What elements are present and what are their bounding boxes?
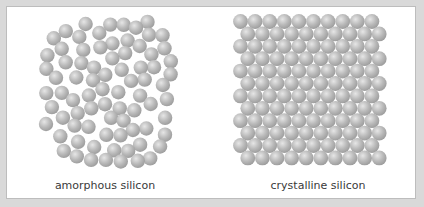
atom xyxy=(129,21,143,35)
atom xyxy=(328,101,343,116)
atom xyxy=(49,71,63,85)
atom xyxy=(328,126,343,141)
atom xyxy=(144,97,158,111)
atom xyxy=(240,101,255,116)
atom xyxy=(372,27,387,42)
atom xyxy=(270,76,285,91)
atom xyxy=(277,39,292,54)
atom xyxy=(270,101,285,116)
atom xyxy=(270,151,285,166)
atom xyxy=(157,41,171,55)
atom xyxy=(45,100,59,114)
atom xyxy=(292,64,307,79)
atom xyxy=(299,76,314,91)
atom xyxy=(299,126,314,141)
atom xyxy=(306,64,321,79)
atom xyxy=(365,14,380,29)
atom xyxy=(240,151,255,166)
atom xyxy=(233,113,248,128)
atom xyxy=(292,14,307,29)
atom xyxy=(284,76,299,91)
atom xyxy=(98,97,112,111)
atom xyxy=(255,126,270,141)
atom xyxy=(306,39,321,54)
atom xyxy=(321,113,336,128)
atom xyxy=(365,89,380,104)
crystalline-silicon-caption: crystalline silicon xyxy=(271,179,366,192)
atom xyxy=(306,89,321,104)
atom xyxy=(153,139,167,153)
atom xyxy=(111,85,125,99)
atom xyxy=(365,64,380,79)
atom xyxy=(233,64,248,79)
atom xyxy=(284,27,299,42)
atom xyxy=(240,126,255,141)
atom xyxy=(115,63,129,77)
atom xyxy=(277,138,292,153)
atom xyxy=(357,126,372,141)
atom xyxy=(284,101,299,116)
atom xyxy=(155,28,169,42)
atom xyxy=(78,17,92,31)
atom xyxy=(321,14,336,29)
atom xyxy=(343,126,358,141)
atom xyxy=(262,64,277,79)
atom xyxy=(321,39,336,54)
atom xyxy=(57,144,71,158)
atom xyxy=(74,56,88,70)
amorphous-silicon-caption: amorphous silicon xyxy=(55,179,155,192)
atom xyxy=(328,27,343,42)
atom xyxy=(350,64,365,79)
atom xyxy=(262,14,277,29)
atom xyxy=(343,51,358,66)
atom xyxy=(156,78,170,92)
atom xyxy=(248,39,263,54)
atom xyxy=(58,55,72,69)
atom xyxy=(277,14,292,29)
atom xyxy=(328,151,343,166)
atom xyxy=(372,101,387,116)
atom xyxy=(255,76,270,91)
atom xyxy=(131,154,145,168)
atom xyxy=(270,27,285,42)
atom xyxy=(248,89,263,104)
atom xyxy=(328,76,343,91)
atom xyxy=(233,89,248,104)
atom xyxy=(313,101,328,116)
atom xyxy=(277,89,292,104)
atom xyxy=(343,151,358,166)
atom xyxy=(321,89,336,104)
atom xyxy=(306,113,321,128)
atom xyxy=(82,88,96,102)
atom xyxy=(87,140,101,154)
atom xyxy=(240,51,255,66)
atom xyxy=(270,126,285,141)
atom xyxy=(104,111,118,125)
atom xyxy=(233,138,248,153)
atom xyxy=(262,113,277,128)
atom xyxy=(372,51,387,66)
atom xyxy=(350,138,365,153)
atom xyxy=(93,40,107,54)
atom xyxy=(71,135,85,149)
atom xyxy=(284,151,299,166)
atom xyxy=(335,113,350,128)
atom xyxy=(69,70,83,84)
atom xyxy=(248,113,263,128)
atom xyxy=(350,113,365,128)
atom xyxy=(313,27,328,42)
atom xyxy=(99,153,113,167)
atom xyxy=(299,27,314,42)
atom xyxy=(372,76,387,91)
atom xyxy=(313,126,328,141)
atom xyxy=(313,51,328,66)
atom xyxy=(39,117,53,131)
atom xyxy=(98,68,112,82)
atom xyxy=(343,27,358,42)
atom xyxy=(350,39,365,54)
atom xyxy=(350,14,365,29)
atom xyxy=(357,51,372,66)
atom xyxy=(233,39,248,54)
atom xyxy=(92,26,106,40)
atom xyxy=(40,48,54,62)
